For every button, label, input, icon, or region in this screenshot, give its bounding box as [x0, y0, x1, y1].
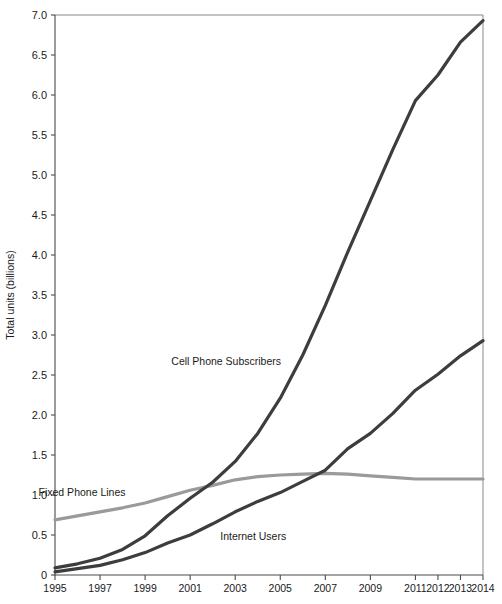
y-tick-label: 6.5 [32, 49, 47, 61]
y-tick-label: 3.0 [32, 329, 47, 341]
series-label-internet-users: Internet Users [220, 530, 286, 542]
x-tick-label: 2003 [224, 582, 248, 594]
x-tick-label: 2001 [178, 582, 202, 594]
chart-container: 00.51.01.52.02.53.03.54.04.55.05.56.06.5… [0, 0, 502, 604]
line-chart: 00.51.01.52.02.53.03.54.04.55.05.56.06.5… [0, 0, 502, 604]
x-tick-label: 2011 [404, 582, 427, 594]
y-tick-label: 5.5 [32, 129, 47, 141]
x-tick-label: 1995 [43, 582, 67, 594]
axis-titles: Total units (billions) [4, 250, 16, 339]
x-tick-label: 2013 [449, 582, 473, 594]
x-tick-label: 1997 [88, 582, 112, 594]
y-tick-label: 5.0 [32, 169, 47, 181]
x-tick-label: 2012 [426, 582, 450, 594]
y-tick-label: 3.5 [32, 289, 47, 301]
x-tick-label: 2014 [471, 582, 495, 594]
y-tick-label: 4.5 [32, 209, 47, 221]
y-tick-label: 6.0 [32, 89, 47, 101]
y-tick-label: 0.5 [32, 529, 47, 541]
x-tick-label: 2005 [269, 582, 293, 594]
y-tick-label: 4.0 [32, 249, 47, 261]
y-tick-label: 2.5 [32, 369, 47, 381]
x-tick-label: 1999 [133, 582, 157, 594]
y-axis-title: Total units (billions) [4, 250, 16, 339]
x-tick-label: 2009 [359, 582, 383, 594]
y-tick-label: 2.0 [32, 409, 47, 421]
x-tick-label: 2007 [314, 582, 338, 594]
chart-background [0, 0, 502, 604]
y-tick-label: 0 [41, 569, 47, 581]
y-tick-label: 1.5 [32, 449, 47, 461]
series-label-cell-phone-subscribers: Cell Phone Subscribers [171, 355, 281, 367]
series-label-fixed-phone-lines: Fixed Phone Lines [39, 486, 126, 498]
y-tick-label: 7.0 [32, 9, 47, 21]
